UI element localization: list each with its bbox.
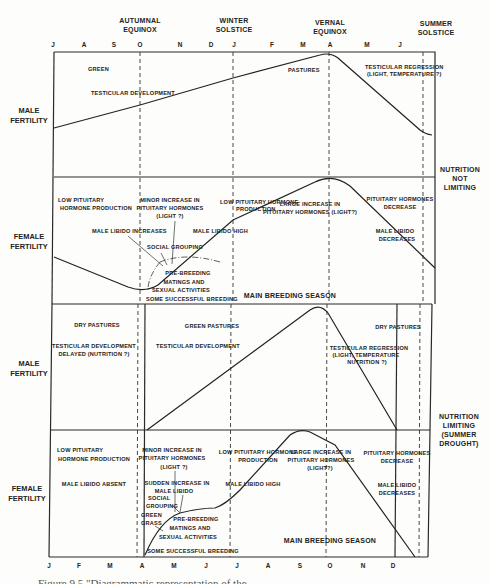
pit-decrease4-2: DECREASE (381, 458, 414, 464)
month-label: M (364, 41, 369, 48)
month-label: J (232, 41, 236, 48)
month-label: N (361, 562, 366, 569)
vernal-equinox-label-1: VERNAL (315, 19, 346, 26)
regression-label-1: TESTICULAR REGRESSION (365, 64, 443, 70)
large-increase-1: LARGE INCREASE IN (280, 201, 341, 207)
delayed-1: TESTICULAR DEVELOPMENT (52, 343, 136, 349)
libido-absent: MALE LIBIDO ABSENT (62, 481, 127, 487)
prebreeding-3: SEXUAL ACTIVITIES (152, 287, 210, 293)
libido-high-4: MALE LIBIDO HIGH (225, 481, 280, 487)
testicular-development-2: TESTICULAR DEVELOPMENT (156, 343, 240, 349)
regression2-3: NUTRITION ?) (347, 359, 387, 365)
social-grouping: SOCIAL GROUPING (147, 244, 203, 250)
month-label: O (138, 41, 143, 48)
group-label-1c: LIMITING (444, 184, 477, 191)
month-label: J (235, 562, 239, 569)
group-label-1b: NOT (452, 175, 468, 182)
low-pituitary-1: LOW PITUITARY (58, 197, 104, 203)
month-label: F (77, 562, 81, 569)
month-label: D (209, 41, 214, 48)
low-pituitary-2: HORMONE PRODUCTION (60, 205, 132, 211)
autumnal-equinox-label-1: AUTUMNAL (119, 17, 161, 24)
low-pituitary4-1: LOW PITUITARY (57, 447, 103, 453)
month-label: A (82, 41, 87, 48)
prebreeding-2: MATINGS AND (163, 279, 204, 285)
month-label: M (107, 562, 112, 569)
row-label-female-2a: FEMALE (12, 484, 42, 493)
season-event-labels: AUTUMNAL EQUINOX WINTER SOLSTICE VERNAL … (119, 17, 454, 36)
dry-pastures-1: DRY PASTURES (74, 322, 120, 328)
low-pituitary4b-1: LOW PITUITARY HORMONE (219, 449, 297, 455)
month-label: A (266, 562, 271, 569)
top-month-axis: J A S O N D J F M A M J (51, 41, 402, 48)
prebreeding4-3: SEXUAL ACTIVITIES (159, 534, 217, 540)
row-label-female-1a: FEMALE (14, 232, 44, 241)
row-label-female-1b: FERTILITY (10, 242, 47, 251)
pit-decrease-2: DECREASE (384, 204, 417, 210)
month-label: M (300, 41, 305, 48)
vernal-equinox-label-2: EQUINOX (313, 28, 347, 36)
sudden-increase-1: SUDDEN INCREASE IN (145, 480, 210, 486)
main-breeding-4: MAIN BREEDING SEASON (284, 537, 376, 544)
libido-decreases4-1: MALE LIBIDO (378, 482, 417, 488)
month-label: J (51, 41, 55, 48)
libido-decreases-1: MALE LIBIDO (376, 228, 415, 234)
green-label: GREEN (88, 66, 109, 72)
low-pituitary4-2: HORMONE PRODUCTION (58, 456, 130, 462)
minor-increase-1: MINOR INCREASE IN (140, 197, 200, 203)
prebreeding4-1: PRE-BREEDING (173, 516, 218, 522)
green-grass-1: GREEN (141, 512, 162, 518)
green-grass-2: GRASS (141, 520, 162, 526)
row-label-male-2a: MALE (19, 359, 40, 368)
minor-increase4-3: (LIGHT ?) (160, 464, 187, 470)
pit-decrease-1: PITUITARY HORMONES (367, 196, 434, 202)
event-guides-upper (140, 52, 423, 304)
month-label: A (140, 562, 145, 569)
regression2-2: (LIGHT, TEMPERATURE (332, 352, 399, 358)
libido-decreases-2: DECREASES (379, 236, 416, 242)
group-label-2b: LIMITING (443, 422, 476, 429)
winter-solstice-label-2: SOLSTICE (216, 26, 253, 33)
main-breeding: MAIN BREEDING SEASON (244, 292, 336, 299)
social4-1: SOCIAL (148, 495, 171, 501)
pastures-label: PASTURES (288, 67, 320, 73)
month-label: O (328, 562, 333, 569)
large-increase-2: PITUITARY HORMONES (LIGHT?) (263, 209, 357, 215)
row-label-male-1b: FERTILITY (10, 116, 47, 125)
dry-pastures-2: DRY PASTURES (375, 324, 421, 330)
month-label: S (298, 562, 303, 569)
low-pituitary4b-2: PRODUCTION (238, 457, 278, 463)
row-label-female-2b: FERTILITY (8, 494, 45, 503)
month-label: S (112, 41, 117, 48)
group-label-2c: (SUMMER (442, 431, 477, 439)
green-pastures: GREEN PASTURES (185, 323, 239, 329)
month-label: J (398, 41, 402, 48)
group-label-2a: NUTRITION (439, 413, 479, 420)
libido-high: MALE LIBIDO HIGH (193, 228, 248, 234)
month-label: J (47, 562, 51, 569)
month-label: A (328, 41, 333, 48)
figure-caption: Figure 9.5 "Diagrammatic representation … (38, 574, 258, 584)
nutrition-labels: NUTRITION NOT LIMITING NUTRITION LIMITIN… (439, 166, 480, 448)
libido-decreases4-2: DECREASES (379, 490, 416, 496)
group-label-1a: NUTRITION (440, 166, 480, 173)
minor-increase4-1: MINOR INCREASE IN (142, 447, 202, 453)
row-label-male-2b: FERTILITY (10, 369, 47, 378)
month-label: D (391, 562, 396, 569)
large-increase4-3: (LIGHT?) (307, 465, 333, 471)
large-increase4-2: PITUITARY HORMONES (288, 457, 355, 463)
testicular-development-label: TESTICULAR DEVELOPMENT (91, 90, 175, 96)
group-label-2d: DROUGHT) (439, 440, 478, 448)
prebreeding4-2: MATINGS AND (169, 525, 210, 531)
libido-increases: MALE LIBIDO INCREASES (92, 228, 167, 234)
regression2-1: TESTICULAR REGRESSION (330, 345, 408, 351)
row-label-male-1a: MALE (19, 106, 40, 115)
pit-decrease4-1: PITUITARY HORMONES (364, 450, 431, 456)
month-label: F (270, 41, 274, 48)
delayed-2: DELAYED (NUTRITION ?) (58, 351, 129, 357)
row-labels: MALE FERTILITY FEMALE FERTILITY MALE FER… (8, 106, 47, 503)
some-breeding-4: SOME SUCCESSFUL BREEDING (147, 548, 239, 554)
month-label: M (171, 562, 176, 569)
summer-solstice-label-1: SUMMER (420, 20, 452, 27)
bottom-month-axis: J F M A M J J A S O N D (47, 562, 395, 569)
